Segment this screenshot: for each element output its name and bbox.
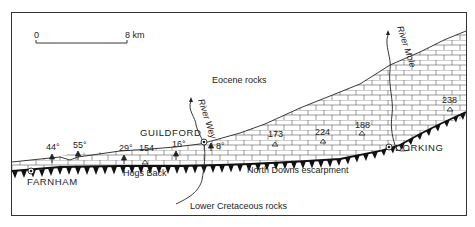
escarpment-label: North Downs escarpment bbox=[247, 165, 349, 175]
eocene-rocks-label: Eocene rocks bbox=[212, 75, 267, 85]
dip-label: 55° bbox=[73, 140, 87, 150]
town-label: DORKING bbox=[395, 142, 444, 153]
town-label: FARNHAM bbox=[27, 176, 78, 187]
spot-height-label: 154 bbox=[139, 143, 154, 153]
spot-height-label: 188 bbox=[355, 120, 370, 130]
town-label: GUILDFORD bbox=[140, 127, 201, 138]
lower-cretaceous-label: Lower Cretaceous rocks bbox=[190, 201, 288, 211]
scale-end-label: 8 km bbox=[125, 30, 145, 40]
spot-height-label: 173 bbox=[268, 129, 283, 139]
dip-8: 8° bbox=[209, 141, 226, 151]
dip-label: 29° bbox=[119, 143, 133, 153]
spot-height-label: 224 bbox=[315, 127, 330, 137]
spot-height-label: 238 bbox=[442, 95, 457, 105]
dip-label: 16° bbox=[172, 139, 186, 149]
dip-label: 44° bbox=[46, 142, 60, 152]
geological-map: 0 8 km Eocene rocks Lower Cretaceous roc… bbox=[0, 0, 475, 227]
hogs-back-label: Hogs Back bbox=[123, 168, 167, 178]
scale-start-label: 0 bbox=[34, 30, 39, 40]
dip-label: 8° bbox=[216, 141, 225, 151]
town-dorking: DORKING bbox=[386, 142, 444, 153]
